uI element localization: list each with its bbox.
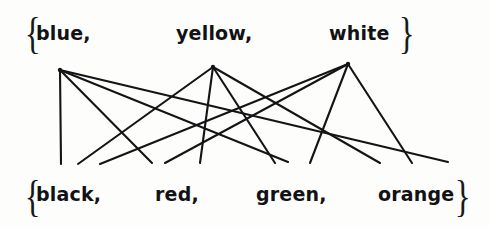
top-set-member-blue: blue, bbox=[36, 22, 91, 44]
bottom-set-member-green: green, bbox=[256, 183, 327, 205]
edge-white-to-orange bbox=[348, 64, 412, 163]
edge-yellow-to-red bbox=[200, 67, 213, 163]
bottom-set-member-black: black, bbox=[36, 183, 101, 205]
top-set-member-white: white bbox=[329, 22, 390, 44]
edge-blue-to-black bbox=[60, 70, 61, 164]
vertex-blue bbox=[58, 68, 62, 72]
vertex-white bbox=[346, 62, 350, 66]
edge-white-to-red bbox=[165, 64, 348, 163]
edge-yellow-to-orange bbox=[213, 67, 380, 163]
vertex-yellow bbox=[211, 65, 215, 69]
top-set-member-yellow: yellow, bbox=[176, 22, 252, 44]
edge-blue-to-red bbox=[60, 70, 152, 163]
bottom-set-member-orange: orange bbox=[378, 183, 454, 205]
edge-yellow-to-green bbox=[213, 67, 275, 163]
edge-blue-to-orange bbox=[60, 70, 448, 162]
bottom-set-close-brace: } bbox=[455, 177, 471, 217]
edge-yellow-to-black bbox=[78, 67, 213, 164]
edge-white-to-black bbox=[100, 64, 348, 164]
edge-white-to-green bbox=[310, 64, 348, 163]
edge-blue-to-green bbox=[60, 70, 288, 162]
top-set-close-brace: } bbox=[399, 14, 415, 54]
bottom-set-member-red: red, bbox=[155, 183, 199, 205]
set-relation-figure: { blue, yellow, white } { black, red, gr… bbox=[0, 0, 490, 227]
